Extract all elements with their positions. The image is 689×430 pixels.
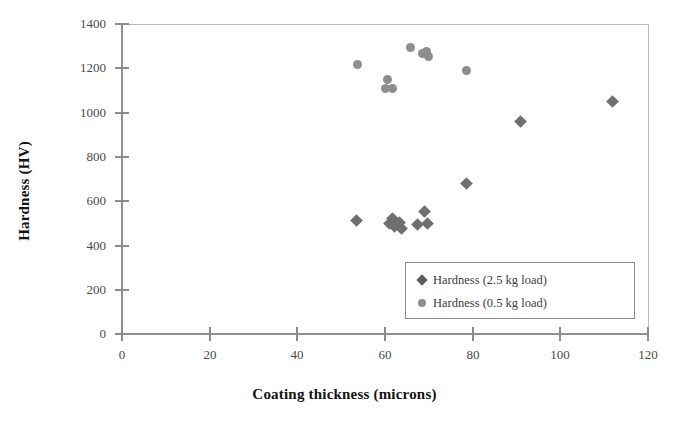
y-axis-title: Hardness (HV) [16, 101, 33, 281]
data-point [406, 43, 415, 52]
data-point [350, 214, 363, 227]
data-point [460, 177, 473, 190]
data-point [353, 60, 362, 69]
circle-marker-icon [418, 299, 426, 307]
data-points-layer [0, 0, 689, 430]
data-point [388, 84, 397, 93]
data-point [607, 95, 620, 108]
data-point [383, 75, 392, 84]
legend-label: Hardness (2.5 kg load) [433, 273, 547, 288]
legend: Hardness (2.5 kg load) Hardness (0.5 kg … [405, 262, 635, 319]
diamond-marker-icon [416, 274, 427, 285]
y-axis-title-wrapper: Hardness (HV) [16, 101, 40, 281]
data-point [462, 66, 471, 75]
scatter-chart: 1400 1200 1000 800 600 400 200 0 0 20 40… [0, 0, 689, 430]
data-point [422, 218, 435, 231]
x-axis-title: Coating thickness (microns) [0, 386, 689, 403]
data-point [418, 205, 431, 218]
data-point [515, 115, 528, 128]
legend-entry-0p5kg: Hardness (0.5 kg load) [418, 293, 547, 313]
legend-label: Hardness (0.5 kg load) [433, 296, 547, 311]
data-point [424, 52, 433, 61]
legend-entry-2p5kg: Hardness (2.5 kg load) [418, 270, 547, 290]
